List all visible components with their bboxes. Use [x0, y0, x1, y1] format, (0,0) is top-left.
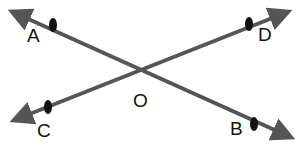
- label-o: O: [133, 91, 148, 110]
- point-a-marker: [49, 18, 57, 32]
- line-ab: [15, 13, 288, 136]
- label-b: B: [230, 119, 243, 138]
- point-b-marker: [250, 117, 258, 131]
- point-c-marker: [44, 100, 52, 114]
- diagram-canvas: A D C B O: [0, 0, 302, 157]
- line-cd: [17, 13, 285, 119]
- label-a: A: [27, 26, 40, 45]
- label-c: C: [37, 121, 51, 140]
- label-d: D: [258, 25, 272, 44]
- point-d-marker: [245, 17, 253, 31]
